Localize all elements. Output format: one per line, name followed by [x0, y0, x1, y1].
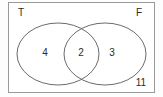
region-count-right-only: 3: [105, 48, 119, 58]
set-label-left: T: [18, 8, 24, 18]
set-label-right: F: [136, 8, 142, 18]
venn-diagram-figure: T F 4 2 3 11: [0, 0, 163, 97]
region-count-intersection: 2: [74, 48, 88, 58]
region-count-left-only: 4: [38, 48, 52, 58]
region-count-outside: 11: [133, 78, 149, 88]
